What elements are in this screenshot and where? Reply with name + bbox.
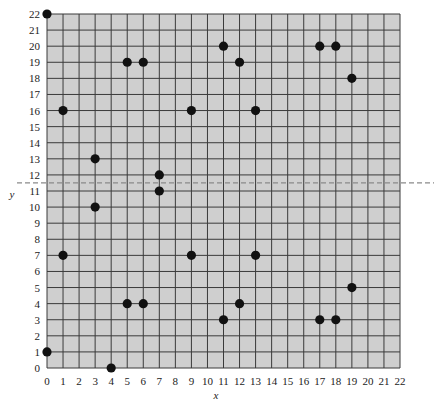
y-tick-label: 17: [29, 88, 41, 100]
data-point: [315, 42, 324, 51]
y-tick-label: 1: [35, 346, 41, 358]
data-point: [107, 363, 116, 372]
y-tick-label: 10: [29, 201, 41, 213]
y-tick-label: 12: [29, 169, 40, 181]
x-tick-label: 2: [76, 375, 82, 387]
y-tick-label: 16: [29, 105, 41, 117]
data-point: [347, 74, 356, 83]
data-point: [58, 251, 67, 260]
x-tick-label: 3: [92, 375, 98, 387]
y-tick-label: 18: [29, 72, 41, 84]
data-point: [139, 58, 148, 67]
x-tick-label: 19: [346, 375, 358, 387]
data-point: [187, 251, 196, 260]
data-point: [347, 283, 356, 292]
data-point: [187, 106, 196, 115]
x-tick-label: 14: [266, 375, 278, 387]
x-tick-label: 16: [298, 375, 310, 387]
data-point: [235, 58, 244, 67]
y-axis-ticks: 012345678910111213141516171819202122: [29, 8, 41, 374]
data-point: [42, 347, 51, 356]
data-point: [91, 202, 100, 211]
y-tick-label: 13: [29, 153, 41, 165]
y-tick-label: 15: [29, 121, 41, 133]
data-point: [331, 315, 340, 324]
x-tick-label: 0: [44, 375, 50, 387]
data-point: [315, 315, 324, 324]
y-tick-label: 22: [29, 8, 40, 20]
x-axis-ticks: 012345678910111213141516171819202122: [44, 375, 405, 387]
data-point: [123, 58, 132, 67]
data-point: [235, 299, 244, 308]
x-tick-label: 17: [314, 375, 326, 387]
y-tick-label: 8: [35, 233, 41, 245]
y-tick-label: 20: [29, 40, 41, 52]
x-tick-label: 5: [124, 375, 130, 387]
data-point: [139, 299, 148, 308]
y-axis-label: y: [9, 188, 15, 200]
data-point: [155, 170, 164, 179]
y-tick-label: 11: [29, 185, 40, 197]
x-tick-label: 18: [330, 375, 342, 387]
y-tick-label: 14: [29, 137, 41, 149]
data-point: [251, 106, 260, 115]
x-tick-label: 20: [362, 375, 374, 387]
x-axis-label: x: [213, 389, 219, 401]
data-point: [58, 106, 67, 115]
data-point: [42, 9, 51, 18]
x-tick-label: 13: [250, 375, 262, 387]
y-tick-label: 0: [35, 362, 41, 374]
y-tick-label: 6: [35, 265, 41, 277]
y-tick-label: 21: [29, 24, 40, 36]
y-tick-label: 3: [35, 314, 41, 326]
data-point: [219, 315, 228, 324]
x-tick-label: 4: [108, 375, 114, 387]
y-tick-label: 2: [35, 330, 41, 342]
x-tick-label: 22: [395, 375, 406, 387]
data-point: [251, 251, 260, 260]
x-tick-label: 7: [157, 375, 163, 387]
y-tick-label: 7: [35, 249, 41, 261]
x-tick-label: 6: [141, 375, 147, 387]
x-tick-label: 1: [60, 375, 66, 387]
x-tick-label: 10: [202, 375, 214, 387]
y-tick-label: 5: [35, 282, 41, 294]
y-tick-label: 19: [29, 56, 41, 68]
data-point: [219, 42, 228, 51]
scatter-chart: 012345678910111213141516171819202122 012…: [0, 0, 441, 407]
x-tick-label: 9: [189, 375, 195, 387]
data-point: [331, 42, 340, 51]
x-tick-label: 21: [378, 375, 389, 387]
data-point: [123, 299, 132, 308]
y-tick-label: 9: [35, 217, 41, 229]
y-tick-label: 4: [35, 298, 41, 310]
x-tick-label: 15: [282, 375, 294, 387]
x-tick-label: 12: [234, 375, 245, 387]
data-point: [91, 154, 100, 163]
data-point: [155, 186, 164, 195]
x-tick-label: 11: [218, 375, 229, 387]
x-tick-label: 8: [173, 375, 179, 387]
